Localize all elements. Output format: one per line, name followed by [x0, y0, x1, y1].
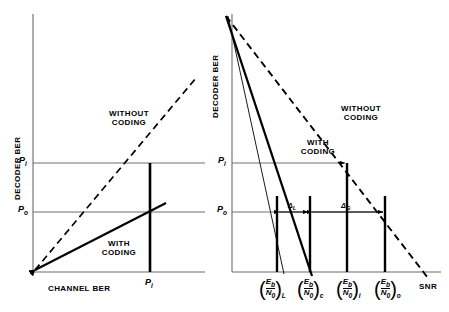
left-annotation-with-coding: WITH CODING — [93, 240, 145, 258]
right-ytick-po: Po — [217, 204, 227, 216]
left-panel-axes — [33, 14, 205, 272]
right-xtick-ebn0-c: ( Eb N0 )c — [297, 278, 323, 300]
right-panel-reference-lines — [232, 163, 383, 212]
left-x-axis-label: CHANNEL BER — [48, 285, 110, 294]
right-xtick-ebn0-o: ( Eb N0 )o — [374, 278, 401, 300]
left-ytick-pi: Pi — [19, 155, 27, 167]
left-xtick-pi: Pi — [145, 277, 153, 289]
right-annotation-without-coding: WITHOUT CODING — [330, 105, 392, 123]
delta-g-label: ΔG — [341, 202, 350, 211]
left-curve-with-coding — [35, 203, 166, 270]
right-x-axis-label: SNR — [419, 283, 437, 292]
right-xtick-ebn0-i: ( Eb N0 )i — [336, 278, 361, 300]
coding-gain-figure: DECODER BER CHANNEL BER Pi Po Pi WITHOUT… — [0, 0, 449, 312]
left-y-axis-label: DECODER BER — [14, 136, 23, 200]
left-ytick-po: Po — [18, 204, 28, 216]
left-annotation-without-coding: WITHOUT CODING — [98, 110, 160, 128]
right-annotation-with-coding: WITH CODING — [292, 139, 344, 157]
right-y-axis-label: DECODER BER — [212, 54, 221, 118]
right-xtick-ebn0-L: ( Eb N0 )L — [259, 278, 286, 300]
right-ytick-pi: Pi — [218, 155, 226, 167]
delta-l-label: ΔL — [288, 202, 296, 211]
